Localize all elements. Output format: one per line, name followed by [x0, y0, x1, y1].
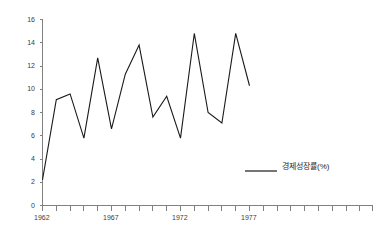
chart-container: 16 14 12 10 8 6 4 2 0 1962 1967 1972 197… [0, 0, 379, 236]
y-tick-label-2: 2 [19, 178, 35, 185]
y-tick-label-14: 14 [19, 39, 35, 46]
x-tick-label-1972: 1972 [172, 214, 188, 221]
y-tick-label-10: 10 [19, 85, 35, 92]
legend-line-swatch [243, 163, 277, 171]
chart-legend: 경제성장률(%) [243, 163, 329, 171]
x-tick-label-1962: 1962 [34, 214, 50, 221]
y-tick-label-8: 8 [19, 109, 35, 116]
x-tick-marks [43, 206, 373, 211]
legend-label-economic-growth-rate: 경제성장률(%) [282, 163, 329, 171]
y-tick-label-12: 12 [19, 62, 35, 69]
y-tick-label-16: 16 [19, 16, 35, 23]
y-tick-label-0: 0 [19, 202, 35, 209]
x-tick-label-1967: 1967 [103, 214, 119, 221]
x-tick-label-1977: 1977 [241, 214, 257, 221]
y-tick-label-6: 6 [19, 132, 35, 139]
series-line-economic-growth-rate [43, 33, 250, 179]
y-tick-label-4: 4 [19, 155, 35, 162]
chart-canvas [0, 0, 379, 236]
